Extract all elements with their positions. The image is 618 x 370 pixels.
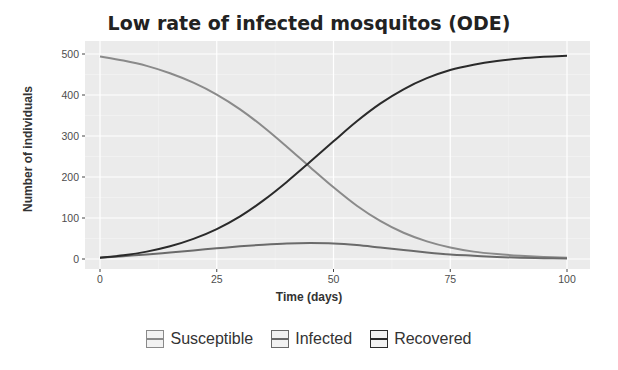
y-tick-label: 0 bbox=[73, 253, 79, 265]
legend: Susceptible Infected Recovered bbox=[0, 330, 618, 348]
y-tick-label: 300 bbox=[61, 130, 79, 142]
x-tick-label: 0 bbox=[97, 273, 103, 285]
x-tick-label: 50 bbox=[328, 273, 340, 285]
recovered-swatch-icon bbox=[370, 330, 388, 348]
legend-label: Recovered bbox=[394, 330, 471, 348]
susceptible-swatch-icon bbox=[146, 330, 164, 348]
x-tick-label: 75 bbox=[444, 273, 456, 285]
legend-label: Infected bbox=[295, 330, 352, 348]
y-tick-label: 500 bbox=[61, 48, 79, 60]
x-tick-label: 100 bbox=[558, 273, 576, 285]
y-tick-label: 400 bbox=[61, 89, 79, 101]
infected-swatch-icon bbox=[271, 330, 289, 348]
legend-item-recovered: Recovered bbox=[370, 330, 471, 348]
legend-item-infected: Infected bbox=[271, 330, 352, 348]
y-tick-label: 100 bbox=[61, 212, 79, 224]
y-axis-label: Number of individuals bbox=[21, 79, 35, 219]
x-axis-label: Time (days) bbox=[0, 290, 618, 304]
y-tick-label: 200 bbox=[61, 171, 79, 183]
legend-item-susceptible: Susceptible bbox=[146, 330, 253, 348]
legend-label: Susceptible bbox=[170, 330, 253, 348]
x-tick-label: 25 bbox=[211, 273, 223, 285]
plot-area: 01002003004005000255075100 bbox=[0, 0, 618, 370]
panel-background bbox=[85, 41, 590, 269]
